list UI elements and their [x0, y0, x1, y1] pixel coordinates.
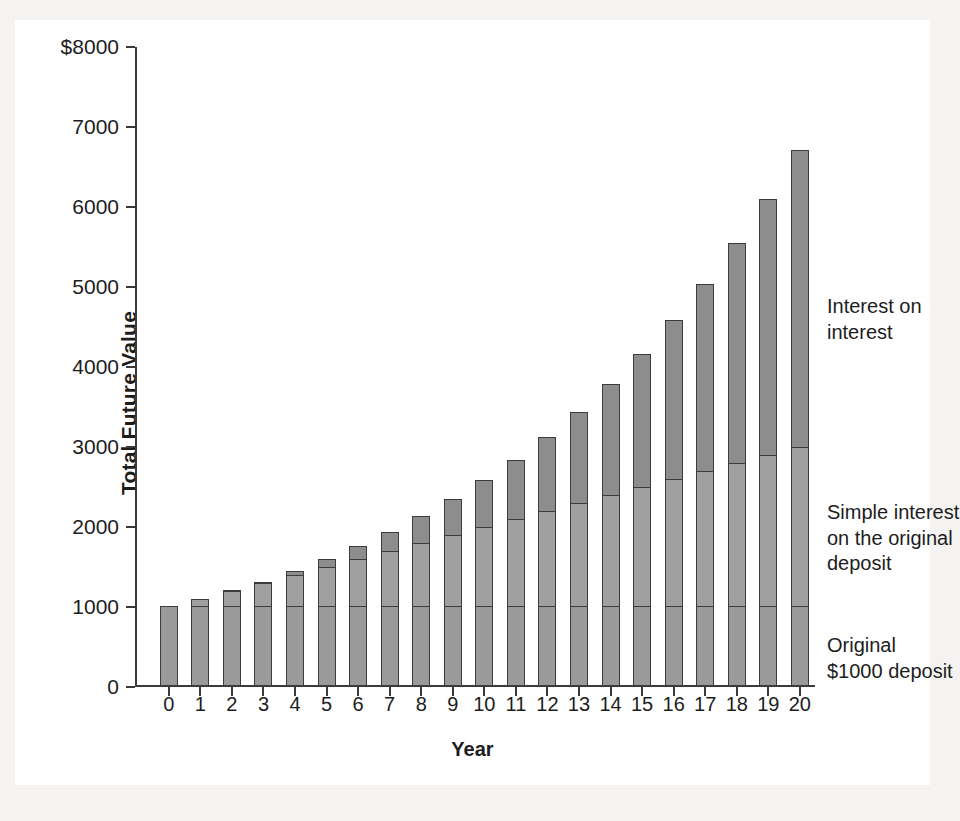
y-tick	[126, 686, 135, 688]
bar-segment-interest-on-interest	[665, 320, 683, 480]
x-tick-label: 10	[473, 693, 495, 716]
bar	[570, 412, 588, 685]
bar-segment-interest-on-interest	[696, 284, 714, 472]
bar-segment-simple-interest-on-the-original-deposit	[507, 519, 525, 607]
bar-segment-original-1000-deposit	[412, 606, 430, 686]
y-tick	[126, 526, 135, 528]
bar	[444, 499, 462, 685]
bar-segment-simple-interest-on-the-original-deposit	[444, 535, 462, 607]
bar-segment-simple-interest-on-the-original-deposit	[570, 503, 588, 607]
bar-segment-original-1000-deposit	[223, 606, 241, 686]
bar	[696, 284, 714, 685]
bar	[538, 437, 556, 685]
bar	[507, 460, 525, 685]
y-tick	[126, 286, 135, 288]
y-tick-label: 7000	[72, 115, 119, 139]
y-tick-label: 4000	[72, 355, 119, 379]
bar-segment-interest-on-interest	[475, 480, 493, 528]
bar-segment-original-1000-deposit	[349, 606, 367, 686]
bar-segment-original-1000-deposit	[728, 606, 746, 686]
bar-segment-simple-interest-on-the-original-deposit	[538, 511, 556, 607]
bar	[318, 559, 336, 685]
bar-segment-simple-interest-on-the-original-deposit	[412, 543, 430, 607]
x-tick-label: 13	[568, 693, 590, 716]
annotation-simple-interest: Simple interest on the original deposit	[827, 500, 960, 577]
bar-segment-original-1000-deposit	[318, 606, 336, 686]
bar	[602, 384, 620, 685]
bar	[160, 606, 178, 685]
bar-segment-simple-interest-on-the-original-deposit	[475, 527, 493, 607]
y-tick	[126, 446, 135, 448]
bar	[349, 546, 367, 685]
y-axis-line	[135, 47, 137, 687]
bar-segment-simple-interest-on-the-original-deposit	[791, 447, 809, 607]
bar-segment-interest-on-interest	[412, 516, 430, 544]
bar	[633, 354, 651, 685]
x-tick-label: 19	[757, 693, 779, 716]
bar-segment-interest-on-interest	[381, 532, 399, 552]
bar	[412, 516, 430, 685]
bar-segment-simple-interest-on-the-original-deposit	[349, 559, 367, 607]
bar	[791, 150, 809, 685]
y-tick-label: 6000	[72, 195, 119, 219]
bar-segment-simple-interest-on-the-original-deposit	[254, 583, 272, 607]
bar	[665, 320, 683, 685]
bar-segment-original-1000-deposit	[507, 606, 525, 686]
bar-segment-original-1000-deposit	[286, 606, 304, 686]
cropped-caption-text	[0, 0, 960, 16]
y-tick	[126, 366, 135, 368]
bar-segment-original-1000-deposit	[791, 606, 809, 686]
y-tick-label: 1000	[72, 595, 119, 619]
bar-segment-original-1000-deposit	[475, 606, 493, 686]
y-tick	[126, 46, 135, 48]
x-tick-label: 20	[789, 693, 811, 716]
y-tick	[126, 126, 135, 128]
x-tick-label: 14	[599, 693, 621, 716]
bar-segment-original-1000-deposit	[538, 606, 556, 686]
bar-segment-interest-on-interest	[538, 437, 556, 512]
bar-segment-original-1000-deposit	[759, 606, 777, 686]
bar-segment-interest-on-interest	[349, 546, 367, 560]
x-tick-label: 6	[353, 693, 364, 716]
x-tick-label: 1	[195, 693, 206, 716]
bar	[286, 571, 304, 685]
x-tick-label: 17	[694, 693, 716, 716]
x-tick-label: 18	[726, 693, 748, 716]
bar-segment-original-1000-deposit	[160, 606, 178, 686]
annotation-original-deposit: Original $1000 deposit	[827, 633, 960, 684]
bar-segment-simple-interest-on-the-original-deposit	[696, 471, 714, 607]
x-tick-label: 9	[447, 693, 458, 716]
x-tick-label: 11	[505, 693, 526, 716]
bar-segment-simple-interest-on-the-original-deposit	[728, 463, 746, 607]
bar-segment-simple-interest-on-the-original-deposit	[286, 575, 304, 607]
x-tick-label: 2	[226, 693, 237, 716]
bar-segment-original-1000-deposit	[254, 606, 272, 686]
bar	[475, 480, 493, 685]
bar	[254, 582, 272, 685]
annotation-interest-on-interest: Interest on interest	[827, 294, 960, 345]
bar-segment-original-1000-deposit	[602, 606, 620, 686]
plot-area: 01000200030004000500060007000$8000 01234…	[135, 47, 815, 687]
bar	[759, 199, 777, 685]
x-tick-label: 7	[384, 693, 395, 716]
y-tick-label: 2000	[72, 515, 119, 539]
bar-segment-simple-interest-on-the-original-deposit	[223, 591, 241, 607]
x-axis-title: Year	[15, 738, 930, 761]
x-tick-label: 16	[663, 693, 685, 716]
bar-segment-original-1000-deposit	[696, 606, 714, 686]
bar-segment-original-1000-deposit	[191, 606, 209, 686]
bar-segment-original-1000-deposit	[665, 606, 683, 686]
bar-segment-interest-on-interest	[633, 354, 651, 488]
bar-segment-interest-on-interest	[444, 499, 462, 536]
y-tick-label: 0	[107, 675, 119, 699]
bar-segment-interest-on-interest	[570, 412, 588, 504]
bar-segment-simple-interest-on-the-original-deposit	[602, 495, 620, 607]
bar-segment-simple-interest-on-the-original-deposit	[633, 487, 651, 607]
y-tick-label: 3000	[72, 435, 119, 459]
bar	[728, 243, 746, 685]
y-tick	[126, 206, 135, 208]
x-tick-label: 0	[163, 693, 174, 716]
bar-segment-simple-interest-on-the-original-deposit	[381, 551, 399, 607]
bar-segment-original-1000-deposit	[444, 606, 462, 686]
bar-segment-interest-on-interest	[791, 150, 809, 448]
